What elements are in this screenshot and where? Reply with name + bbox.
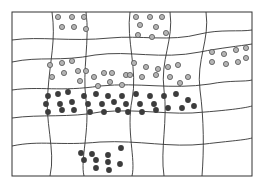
- light-dot: [159, 14, 164, 19]
- light-dot: [59, 24, 64, 29]
- dark-dot: [106, 167, 112, 173]
- light-dot: [133, 14, 138, 19]
- light-dot: [109, 70, 114, 75]
- light-dot: [167, 74, 172, 79]
- dark-dot: [105, 93, 111, 99]
- light-dot: [175, 62, 180, 67]
- light-dot: [77, 78, 82, 83]
- vertical-grid-lines: [47, 12, 207, 176]
- dark-dot: [117, 161, 123, 167]
- dark-dot: [151, 101, 157, 107]
- light-dot: [55, 14, 60, 19]
- dark-dot: [78, 150, 84, 156]
- dark-dot: [69, 99, 75, 105]
- dark-dot: [125, 109, 131, 115]
- light-dot: [49, 74, 54, 79]
- dark-dot: [65, 89, 71, 95]
- light-dot: [243, 45, 248, 50]
- light-dot: [101, 70, 106, 75]
- light-dot: [153, 24, 158, 29]
- light-dot: [127, 72, 132, 77]
- light-dot: [155, 66, 160, 71]
- light-dot: [163, 30, 168, 35]
- dark-dot: [147, 93, 153, 99]
- dark-dot: [119, 93, 125, 99]
- dark-dot: [153, 107, 159, 113]
- dark-dot: [118, 145, 124, 151]
- dark-dot: [59, 107, 65, 113]
- dark-dot: [81, 93, 87, 99]
- dark-dot: [71, 107, 77, 113]
- dark-dot: [191, 103, 197, 109]
- light-dot: [177, 80, 182, 85]
- light-dot: [75, 68, 80, 73]
- dark-dot: [137, 101, 143, 107]
- dark-dot: [99, 101, 105, 107]
- dark-dot: [105, 152, 111, 158]
- dark-dot: [123, 101, 129, 107]
- light-dot: [131, 60, 136, 65]
- light-dot: [119, 82, 124, 87]
- dark-dot: [105, 159, 111, 165]
- light-dot: [61, 70, 66, 75]
- light-dot: [165, 64, 170, 69]
- light-dot: [235, 59, 240, 64]
- dark-dot: [161, 93, 167, 99]
- dark-dot: [179, 105, 185, 111]
- light-dot: [147, 14, 152, 19]
- dark-dot: [81, 157, 87, 163]
- light-dot: [135, 32, 140, 37]
- dark-dot: [111, 99, 117, 105]
- light-dot: [91, 74, 96, 79]
- vertical-grid-line: [199, 12, 206, 176]
- dark-dot: [89, 151, 95, 157]
- light-dot: [221, 51, 226, 56]
- dark-dot: [85, 101, 91, 107]
- light-dot: [137, 22, 142, 27]
- dark-dot: [133, 91, 139, 97]
- light-dot: [81, 14, 86, 19]
- light-dot: [59, 60, 64, 65]
- light-dot: [153, 72, 158, 77]
- dark-dot: [165, 105, 171, 111]
- horizontal-grid-line: [12, 30, 252, 40]
- light-dot: [143, 64, 148, 69]
- light-dot: [243, 55, 248, 60]
- dark-dot: [185, 97, 191, 103]
- light-dot: [185, 74, 190, 79]
- light-dot: [149, 34, 154, 39]
- light-dot: [139, 74, 144, 79]
- light-dot: [83, 68, 88, 73]
- light-dot: [107, 79, 112, 84]
- dark-dot-group: [43, 89, 197, 173]
- dark-dot: [45, 109, 51, 115]
- dark-dot: [173, 91, 179, 97]
- light-dot: [209, 49, 214, 54]
- light-dot: [69, 14, 74, 19]
- dark-dot: [93, 165, 99, 171]
- dark-dot: [93, 157, 99, 163]
- dark-dot: [93, 91, 99, 97]
- light-dot: [69, 58, 74, 63]
- light-dot: [233, 47, 238, 52]
- light-dot: [223, 61, 228, 66]
- vertical-grid-line: [129, 12, 134, 176]
- dark-dot: [87, 109, 93, 115]
- dark-dot: [139, 109, 145, 115]
- horizontal-grid-line: [12, 138, 252, 146]
- light-dot: [209, 59, 214, 64]
- dark-dot: [101, 109, 107, 115]
- light-dot: [95, 83, 100, 88]
- light-dot: [83, 26, 88, 31]
- dark-dot: [115, 107, 121, 113]
- light-dot: [47, 62, 52, 67]
- light-dot-group: [47, 14, 248, 88]
- light-dot: [71, 24, 76, 29]
- dark-dot: [45, 93, 51, 99]
- dark-dot: [57, 101, 63, 107]
- dark-dot: [55, 91, 61, 97]
- grid-dot-diagram: [0, 0, 263, 185]
- dark-dot: [43, 101, 49, 107]
